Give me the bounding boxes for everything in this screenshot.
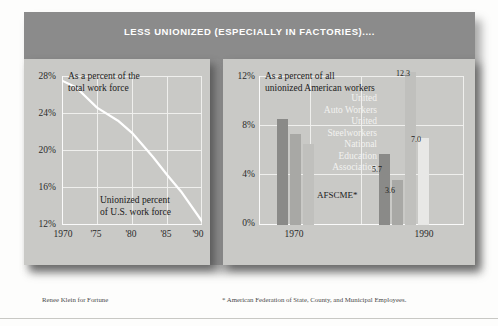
legend-uaw-line1: United (351, 93, 377, 103)
credit-footnote: Renee Klein for Fortune (42, 296, 108, 303)
bar-value-12-3: 12.3 (388, 69, 418, 78)
bar-value-5-7: 5.7 (362, 165, 392, 174)
right-xtick-1970: 1970 (269, 229, 319, 239)
left-xtick-90: '90 (186, 229, 210, 239)
left-xtick-85: '85 (154, 229, 178, 239)
right-caption-line1: As a percent of all (265, 71, 335, 81)
legend-uaw-line2: Auto Workers (324, 105, 377, 115)
left-xtick-75: '75 (84, 229, 108, 239)
left-annotation-line2: of U.S. work force (100, 207, 171, 217)
left-xtick-1970: 1970 (47, 229, 79, 239)
infographic-card: LESS UNIONIZED (ESPECIALLY IN FACTORIES)… (24, 12, 475, 265)
bar-value-3-6: 3.6 (375, 186, 405, 195)
page-title: LESS UNIONIZED (ESPECIALLY IN FACTORIES)… (24, 26, 475, 37)
left-ytick-24: 24% (26, 108, 56, 118)
legend-usw-line1: United (351, 116, 377, 126)
right-ytick-12: 12% (225, 71, 255, 81)
left-chart-panel: 28% 24% 20% 16% 12% (24, 59, 210, 265)
left-chart-annotation: Unionized percent of U.S. work force (100, 195, 205, 218)
left-caption-line1: As a percent of the (68, 71, 140, 81)
right-ytick-8: 8% (225, 120, 255, 130)
left-annotation-line1: Unionized percent (100, 195, 170, 205)
legend-nea-line1: National (344, 139, 377, 149)
left-caption-line2: total work force (68, 83, 129, 93)
left-ytick-16: 16% (26, 182, 56, 192)
header-band: LESS UNIONIZED (ESPECIALLY IN FACTORIES)… (24, 12, 475, 59)
left-ytick-28: 28% (26, 71, 56, 81)
right-caption-line2: unionized American workers (265, 83, 375, 93)
bar-1990-afscme (418, 138, 429, 225)
asterisk-footnote: * American Federation of State, County, … (222, 296, 406, 303)
bar-1990-national-education-association (405, 72, 416, 225)
left-chart-caption: As a percent of the total work force (68, 71, 188, 94)
left-xtick-80: '80 (119, 229, 143, 239)
right-chart-legend: United Auto Workers United Steelworkers … (267, 93, 377, 174)
right-chart-panel: 12% 8% 4% 0% (223, 59, 475, 265)
right-xtick-1990: 1990 (399, 229, 449, 239)
legend-nea-line2: Education (338, 151, 377, 161)
bottom-rule (0, 318, 498, 319)
bar-value-7-0: 7.0 (401, 135, 431, 144)
right-chart-y-axis (259, 76, 260, 225)
right-ytick-0: 0% (225, 218, 255, 228)
left-ytick-12: 12% (26, 219, 56, 229)
left-ytick-20: 20% (26, 145, 56, 155)
right-ytick-4: 4% (225, 169, 255, 179)
legend-usw-line2: Steelworkers (327, 128, 377, 138)
infographic-root: LESS UNIONIZED (ESPECIALLY IN FACTORIES)… (0, 0, 498, 326)
afscme-annotation: AFSCME* (317, 190, 358, 200)
gridline-v (463, 76, 464, 225)
